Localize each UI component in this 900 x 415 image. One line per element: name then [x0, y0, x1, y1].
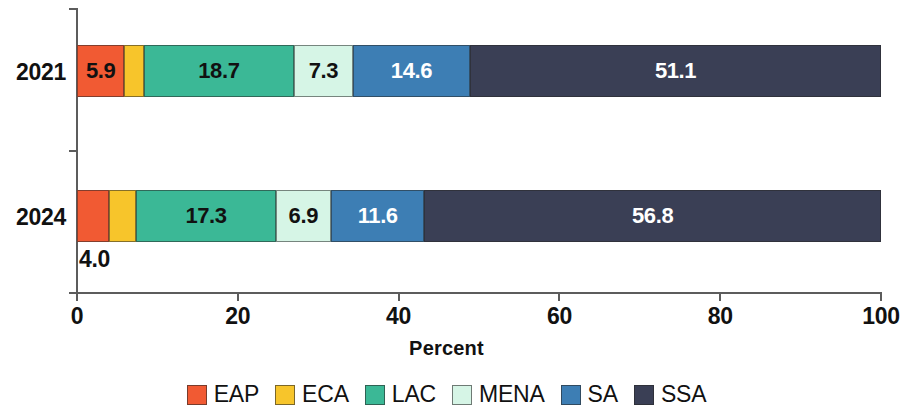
y-axis-label-2024: 2024	[0, 204, 66, 231]
bar-segment-value: 18.7	[198, 60, 239, 82]
x-axis-tick	[398, 292, 400, 301]
y-axis-tick-top	[69, 8, 77, 10]
bar-segment-sa: 11.6	[331, 190, 424, 242]
x-axis-tick	[558, 292, 560, 301]
bar-segment-eap: 5.9	[77, 45, 124, 97]
legend-item-sa[interactable]: SA	[561, 383, 618, 406]
legend-swatch-sa	[561, 385, 581, 405]
legend-item-eca[interactable]: ECA	[275, 383, 349, 406]
x-axis-tick	[76, 292, 78, 301]
bar-segment-value: 11.6	[358, 205, 398, 227]
legend-label: LAC	[392, 383, 436, 406]
legend-label: MENA	[479, 383, 545, 406]
bar-segment-mena: 6.9	[276, 190, 331, 242]
bar-segment-sa: 14.6	[353, 45, 470, 97]
legend-swatch-ssa	[634, 385, 654, 405]
legend-item-eap[interactable]: EAP	[187, 383, 259, 406]
bar-segment-lac: 18.7	[144, 45, 294, 97]
bar-segment-value: 7.3	[309, 60, 338, 82]
x-axis-title: Percent	[0, 337, 893, 360]
legend-item-ssa[interactable]: SSA	[634, 383, 706, 406]
legend-swatch-lac	[365, 385, 385, 405]
legend-label: EAP	[214, 383, 259, 406]
legend-label: ECA	[302, 383, 349, 406]
x-axis-tick	[880, 292, 882, 301]
x-axis-tick	[237, 292, 239, 301]
bar-segment-value: 56.8	[632, 205, 673, 227]
bar-segment-eap	[77, 190, 109, 242]
bar-segment-ssa: 56.8	[424, 190, 881, 242]
legend-swatch-eca	[275, 385, 295, 405]
legend-label: SSA	[661, 383, 706, 406]
legend-label: SA	[588, 383, 618, 406]
bar-segment-value: 51.1	[655, 60, 696, 82]
x-axis-tick-label: 100	[862, 303, 899, 330]
bar-segment-eca	[124, 45, 143, 97]
bar-segment-ssa: 51.1	[470, 45, 881, 97]
legend-item-lac[interactable]: LAC	[365, 383, 436, 406]
bar-segment-eca	[109, 190, 136, 242]
legend-swatch-eap	[187, 385, 207, 405]
x-axis-tick-label: 0	[71, 303, 84, 330]
legend-item-mena[interactable]: MENA	[452, 383, 545, 406]
bar-segment-lac: 17.3	[136, 190, 275, 242]
x-axis-tick-label: 80	[708, 303, 733, 330]
bar-segment-mena: 7.3	[294, 45, 353, 97]
bar-segment-value: 17.3	[185, 205, 226, 227]
bar-segment-value: 14.6	[391, 60, 432, 82]
x-axis-tick-label: 60	[547, 303, 572, 330]
y-axis-label-2021: 2021	[0, 59, 66, 86]
legend-swatch-mena	[452, 385, 472, 405]
legend: EAPECALACMENASASSA	[0, 383, 893, 406]
x-axis-tick-label: 20	[225, 303, 250, 330]
bar-segment-value: 5.9	[86, 60, 115, 82]
x-axis-tick-label: 40	[386, 303, 411, 330]
bar-segment-value-outside: 4.0	[79, 248, 110, 271]
x-axis-tick	[719, 292, 721, 301]
bar-segment-value: 6.9	[289, 205, 318, 227]
y-axis-tick-middle	[69, 150, 77, 152]
x-axis-line	[76, 292, 882, 294]
